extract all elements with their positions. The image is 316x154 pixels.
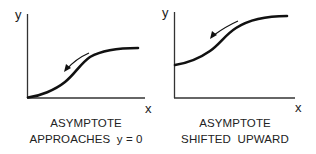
right-axes: [174, 12, 295, 98]
right-caption-line2: SHIFTED UPWARD: [160, 132, 310, 146]
left-y-axis-label: y: [15, 8, 22, 21]
left-x-axis-label: x: [145, 102, 152, 115]
right-caption-line1: ASYMPTOTE: [160, 116, 310, 130]
left-axes: [27, 14, 145, 98]
right-sigmoid-curve: [175, 16, 287, 65]
diagram-canvas: [0, 0, 316, 154]
right-x-axis-label: x: [295, 101, 302, 114]
left-caption-line2: APPROACHES y = 0: [11, 132, 161, 146]
right-y-axis-label: y: [162, 6, 169, 19]
left-caption-line1: ASYMPTOTE: [11, 116, 161, 130]
